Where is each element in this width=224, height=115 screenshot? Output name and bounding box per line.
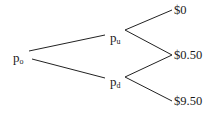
- edge-root-up: [29, 35, 105, 51]
- leaf-payoff-0: $0: [174, 4, 187, 17]
- edge-up-leaf1: [125, 30, 172, 55]
- leaf-payoff-2: $9.50: [174, 95, 202, 108]
- leaf-payoff-1: $0.50: [174, 49, 202, 62]
- node-up-sub: u: [117, 37, 121, 46]
- node-down-sub: d: [117, 81, 121, 90]
- node-root-sub: o: [20, 57, 24, 66]
- edge-root-down: [32, 59, 105, 78]
- edge-down-leaf2: [125, 77, 172, 101]
- edge-up-leaf0: [125, 10, 172, 30]
- node-root: po: [13, 51, 24, 66]
- binomial-tree-diagram: po pu pd $0 $0.50 $9.50: [0, 0, 224, 115]
- edge-down-leaf1: [125, 55, 172, 77]
- node-down: pd: [110, 75, 121, 90]
- node-up: pu: [110, 31, 121, 46]
